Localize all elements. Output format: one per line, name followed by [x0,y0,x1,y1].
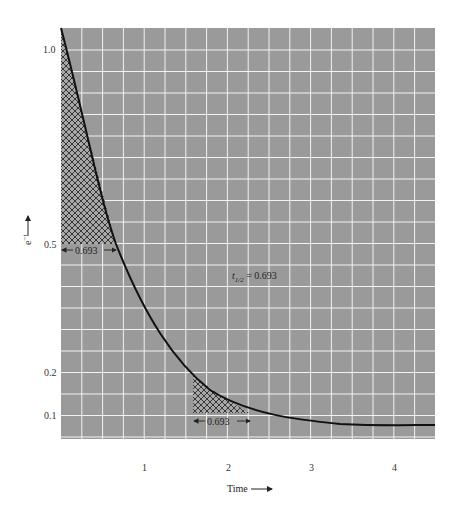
interval-1-label: 0.693 [75,245,98,256]
half-life-chart: 1.0 0.5 0.2 0.1 1 2 3 4 Time e−t 0.693 0… [0,0,458,515]
x-tick-1: 1 [142,462,147,473]
interval-2-label: 0.693 [207,416,230,427]
svg-text:e−t: e−t [21,235,33,245]
y-tick-0.2: 0.2 [44,367,57,378]
x-axis-label: Time [227,483,248,494]
y-axis-label: e−t [21,235,33,245]
y-tick-0.1: 0.1 [44,410,57,421]
y-tick-1.0: 1.0 [43,44,56,55]
x-tick-4: 4 [392,462,397,473]
x-tick-2: 2 [226,462,231,473]
x-tick-3: 3 [309,462,314,473]
y-tick-0.5: 0.5 [44,239,57,250]
